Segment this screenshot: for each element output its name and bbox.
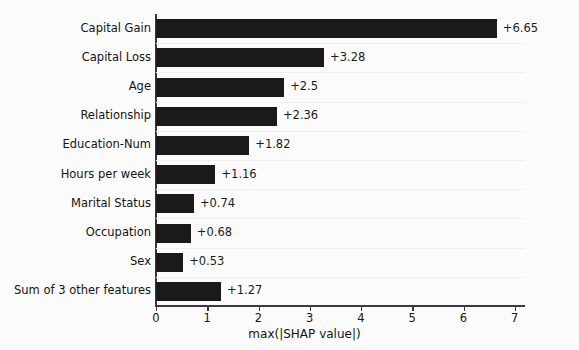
gridline <box>156 102 525 103</box>
bar <box>156 194 194 213</box>
y-axis-tick-label: Occupation <box>86 227 151 239</box>
bar-value-label: +3.28 <box>330 52 365 64</box>
bar-value-label: +1.27 <box>227 285 262 297</box>
x-axis-tick-label: 5 <box>409 313 416 325</box>
bar <box>156 253 183 272</box>
gridline <box>156 43 525 44</box>
gridline <box>156 131 525 132</box>
bar-value-label: +0.74 <box>200 198 235 210</box>
bar <box>156 48 324 67</box>
gridline <box>156 189 525 190</box>
gridline <box>156 218 525 219</box>
bar <box>156 19 497 38</box>
x-axis-tick-label: 6 <box>460 313 467 325</box>
bar-value-label: +1.82 <box>255 139 290 151</box>
bar-value-label: +0.68 <box>197 227 232 239</box>
x-axis-tick-label: 3 <box>306 313 313 325</box>
x-axis-tick-label: 4 <box>357 313 364 325</box>
shap-feature-importance-figure: +6.65+3.28+2.5+2.36+1.82+1.16+0.74+0.68+… <box>0 0 579 350</box>
x-axis-tick-label: 1 <box>204 313 211 325</box>
bar <box>156 107 277 126</box>
gridline <box>156 160 525 161</box>
y-axis-tick-label: Education-Num <box>63 139 152 151</box>
x-axis-tick-label: 7 <box>511 313 518 325</box>
y-axis-tick-label: Marital Status <box>71 198 151 210</box>
y-axis-tick-label: Capital Gain <box>81 23 151 35</box>
x-axis-title: max(|SHAP value|) <box>0 328 579 340</box>
bar-value-label: +2.5 <box>290 81 318 93</box>
x-axis-tick-label: 0 <box>152 313 159 325</box>
bar-value-label: +1.16 <box>221 169 256 181</box>
gridline <box>156 72 525 73</box>
bar <box>156 224 191 243</box>
y-axis-tick-label: Sum of 3 other features <box>14 285 151 297</box>
gridline <box>156 248 525 249</box>
x-axis-tick-label: 2 <box>255 313 262 325</box>
bar <box>156 136 249 155</box>
x-axis-title-text: max(|SHAP value|) <box>248 328 360 340</box>
y-axis-tick-label: Relationship <box>80 110 151 122</box>
bar <box>156 165 215 184</box>
bar <box>156 282 221 301</box>
bar-value-label: +2.36 <box>283 110 318 122</box>
bar <box>156 78 284 97</box>
y-axis-tick-label: Sex <box>130 256 151 268</box>
y-axis-tick-label: Age <box>129 81 151 93</box>
y-axis-tick-label: Capital Loss <box>82 52 151 64</box>
bar-value-label: +0.53 <box>189 256 224 268</box>
gridline <box>156 277 525 278</box>
y-axis-tick-label: Hours per week <box>61 169 151 181</box>
bar-value-label: +6.65 <box>503 23 538 35</box>
x-axis-spine <box>155 305 525 307</box>
